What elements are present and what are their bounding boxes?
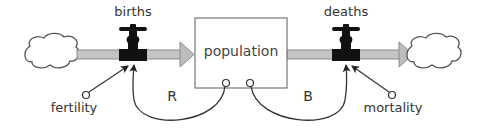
fertility-label: fertility: [51, 101, 98, 114]
mortality-link-arrow: [352, 66, 389, 92]
connector-origin-b: [247, 80, 254, 87]
connector-origin-r: [223, 80, 230, 87]
cloud-source-icon: [25, 33, 79, 67]
mortality-aux-circle[interactable]: [389, 92, 396, 99]
deaths-valve-icon: [332, 24, 360, 61]
population-label: population: [204, 44, 279, 58]
births-label: births: [114, 5, 151, 18]
births-valve-icon: [119, 24, 147, 61]
cloud-sink-icon: [407, 33, 461, 67]
fertility-link-arrow: [89, 66, 128, 92]
mortality-label: mortality: [363, 101, 422, 114]
diagram-canvas: [0, 0, 482, 136]
balancing-loop-label: B: [303, 89, 313, 103]
reinforcing-loop-label: R: [167, 89, 177, 103]
deaths-label: deaths: [324, 5, 368, 18]
fertility-aux-circle[interactable]: [83, 92, 90, 99]
